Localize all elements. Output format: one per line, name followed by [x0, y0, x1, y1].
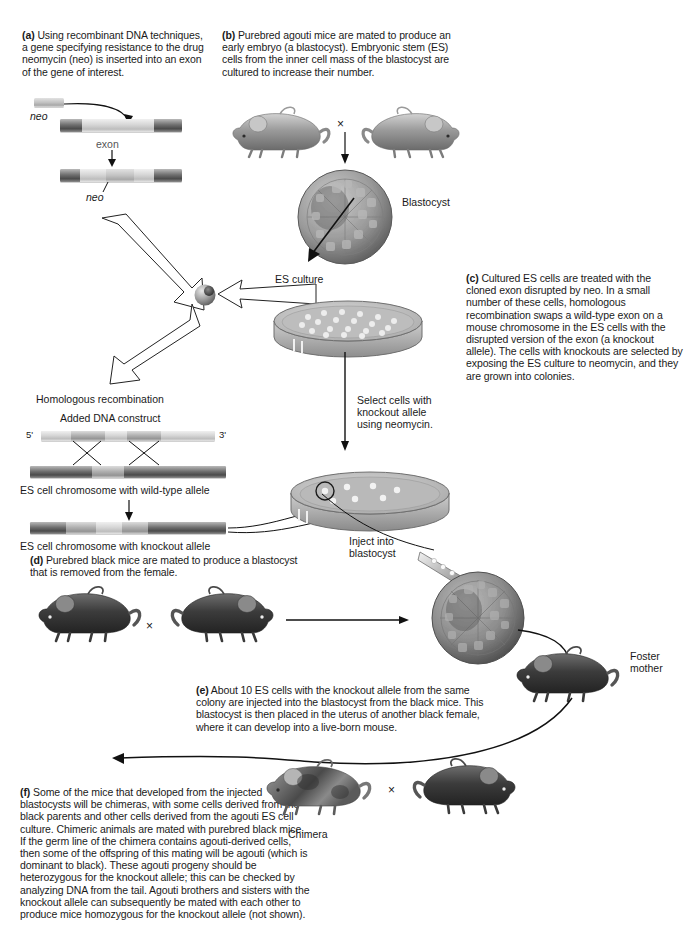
foster-mother-line1: Foster [630, 650, 660, 662]
select-cells-line2: knockout allele [357, 406, 426, 418]
select-cells-arrow [340, 352, 352, 452]
panel-d-tag: (d) [30, 554, 43, 566]
recombination-result-arrow [124, 500, 136, 522]
blastocyst-label: Blastocyst [402, 196, 450, 208]
panel-a-caption: (a) Using recombinant DNA techniques, a … [22, 29, 208, 78]
black-mouse-parent-right [168, 586, 278, 642]
foster-mother-line2: mother [630, 662, 663, 674]
gene-of-interest-bar [60, 119, 182, 132]
five-prime-label: 5' [26, 429, 33, 441]
cell-to-recombination-hollow-arrow [96, 300, 206, 386]
knockout-chromosome-label: ES cell chromosome with knockout allele [20, 540, 210, 552]
blastocyst-to-culture-arrow [300, 196, 360, 268]
disrupted-gene-bar [60, 169, 182, 182]
black-mouse-parent-left [34, 586, 144, 642]
es-culture-label: ES culture [275, 273, 323, 285]
black-mating-to-blastocyst-arrow [286, 614, 412, 626]
chimera-label: Chimera [288, 828, 328, 840]
wild-type-chromosome-bar [30, 466, 226, 478]
neo-label-top: neo [30, 110, 48, 122]
panel-b-text: Purebred agouti mice are mated to produc… [222, 29, 451, 78]
cross-symbol-panel-f: × [388, 784, 395, 796]
mating-to-blastocyst-arrow [340, 132, 352, 166]
panel-b-tag: (b) [222, 29, 235, 41]
select-cells-line3: using neomycin. [357, 418, 433, 430]
inject-into-line1: Inject into [349, 535, 394, 547]
cross-symbol-panel-d: × [146, 620, 153, 632]
black-mouse-mate-chimera [410, 758, 520, 814]
panel-a-tag: (a) [22, 29, 35, 41]
select-cells-line1: Select cells with [357, 394, 432, 406]
inject-into-line2: blastocyst [349, 547, 396, 559]
added-dna-construct-bar [41, 431, 215, 441]
panel-b-caption: (b) Purebred agouti mice are mated to pr… [222, 29, 465, 78]
chimera-mouse [262, 758, 374, 816]
crossover-lines [41, 441, 221, 467]
panel-f-tag: (f) [20, 786, 30, 798]
cross-symbol-panel-b: × [337, 118, 344, 130]
knockout-chromosome-bar [30, 522, 226, 534]
homologous-recombination-title: Homologous recombination [36, 393, 164, 405]
panel-c-caption: (c) Cultured ES cells are treated with t… [466, 272, 684, 382]
agouti-mouse-parent-left [228, 106, 334, 158]
panel-d-text: Purebred black mice are mated to produce… [30, 554, 297, 578]
panel-d-caption: (d) Purebred black mice are mated to pro… [30, 554, 302, 578]
panel-c-tag: (c) [466, 272, 479, 284]
wild-type-chromosome-label: ES cell chromosome with wild-type allele [20, 484, 210, 496]
gene-insertion-arrow [106, 150, 118, 168]
exon-label: exon [96, 138, 119, 150]
panel-a-text: Using recombinant DNA techniques, a gene… [22, 29, 204, 78]
panel-c-text: Cultured ES cells are treated with the c… [466, 272, 683, 382]
agouti-mouse-parent-right [358, 106, 464, 158]
neo-label-bottom: neo [86, 191, 104, 203]
three-prime-label: 3' [219, 429, 226, 441]
added-dna-construct-label: Added DNA construct [60, 412, 160, 424]
